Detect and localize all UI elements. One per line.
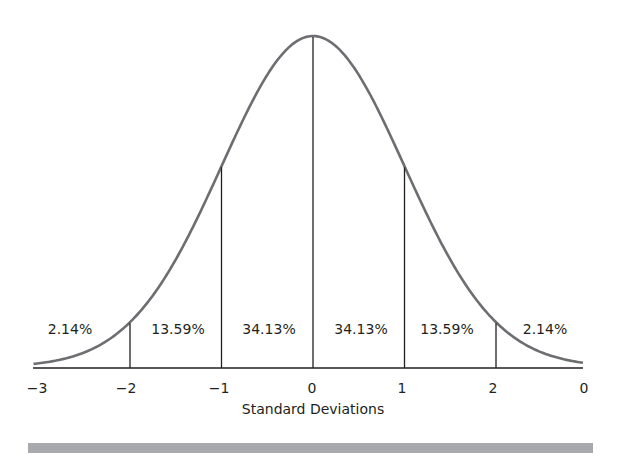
sd-divider-lines xyxy=(130,37,496,368)
region-label-2: 13.59% xyxy=(151,321,204,337)
region-label-5: 13.59% xyxy=(420,321,473,337)
x-axis-title: Standard Deviations xyxy=(242,401,384,417)
region-label-4: 34.13% xyxy=(334,321,387,337)
region-label-3: 34.13% xyxy=(242,321,295,337)
region-label-1: 2.14% xyxy=(48,321,92,337)
footer-bar xyxy=(28,443,593,453)
x-tick-label: 2 xyxy=(489,380,498,396)
bell-curve xyxy=(33,36,582,364)
x-tick-label: 0 xyxy=(308,380,317,396)
region-label-6: 2.14% xyxy=(523,321,567,337)
region-labels: 2.14% 13.59% 34.13% 34.13% 13.59% 2.14% xyxy=(48,321,567,337)
x-tick-label: −1 xyxy=(209,380,230,396)
normal-distribution-chart: 2.14% 13.59% 34.13% 34.13% 13.59% 2.14% … xyxy=(0,0,618,460)
x-tick-label: −2 xyxy=(116,380,137,396)
x-tick-label: 0 xyxy=(580,380,589,396)
x-tick-label: 1 xyxy=(398,380,407,396)
x-tick-labels: −3 −2 −1 0 1 2 0 xyxy=(27,380,589,396)
x-tick-label: −3 xyxy=(27,380,48,396)
